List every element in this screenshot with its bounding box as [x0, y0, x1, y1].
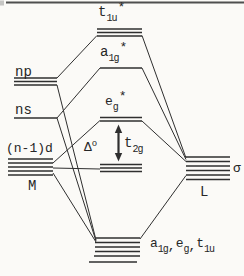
- page-corner-mark: [0, 1, 4, 6]
- connector-ns-to-a1g-star: [57, 68, 100, 118]
- delta-base: Δ: [84, 140, 92, 155]
- connector-t1u-star-to-ligand: [142, 36, 186, 159]
- ligand-label: L: [200, 185, 208, 199]
- t1u-star-asterisk: *: [117, 0, 125, 15]
- sigma-label: σ: [233, 162, 241, 175]
- level-t1u-star: [97, 29, 142, 36]
- bonding-t1u-sub: 1u: [204, 244, 214, 255]
- delta-sup: o: [92, 139, 97, 149]
- nd-label: (n-1)d: [6, 142, 53, 155]
- connector-d-to-bonding: [53, 173, 96, 242]
- eg-star-base: e: [105, 94, 113, 109]
- ns-label: ns: [15, 103, 32, 117]
- level-ligand-sigma: [186, 157, 230, 180]
- level-n-1-d: [8, 159, 53, 175]
- t2g-sub: 2g: [132, 144, 142, 155]
- bonding-comma: ,: [168, 239, 176, 254]
- level-bonding: [89, 238, 140, 262]
- bonding-label: a1g,eg,t1u: [150, 235, 214, 251]
- connector-d-to-t2g: [53, 168, 100, 169]
- t1u-star-sub: 1u: [106, 13, 116, 24]
- t1u-star-label: t1u*: [98, 4, 125, 20]
- delta-o-label: Δo: [84, 139, 97, 155]
- mo-diagram: t1u* a1g* eg* np ns (n-1)d M σ L Δo t2g …: [0, 0, 244, 276]
- a1g-star-asterisk: *: [119, 40, 127, 55]
- bonding-a1g-base: a: [150, 236, 158, 251]
- eg-star-sub: g: [113, 102, 118, 113]
- a1g-star-sub: 1g: [108, 53, 118, 64]
- a1g-star-label: a1g*: [100, 44, 127, 60]
- connector-ligand-to-bonding: [140, 176, 186, 240]
- np-label: np: [15, 65, 32, 79]
- bonding-comma: ,: [188, 239, 196, 254]
- connector-a1g-star-to-ligand: [142, 68, 186, 160]
- level-t2g: [100, 165, 142, 172]
- connector-np-to-t1u-star: [57, 36, 97, 79]
- metal-label: M: [28, 179, 36, 193]
- eg-star-asterisk: *: [119, 89, 127, 104]
- bonding-t1u-base: t: [196, 236, 204, 251]
- delta-splitting-arrow: [115, 125, 122, 162]
- bonding-a1g-sub: 1g: [158, 244, 168, 255]
- connector-ns-to-bonding: [57, 118, 96, 241]
- t2g-label: t2g: [124, 135, 142, 151]
- eg-star-label: eg*: [105, 93, 127, 109]
- level-eg-star: [100, 118, 142, 122]
- connector-eg-star-to-ligand: [142, 121, 186, 162]
- connector-np-to-bonding: [57, 85, 96, 240]
